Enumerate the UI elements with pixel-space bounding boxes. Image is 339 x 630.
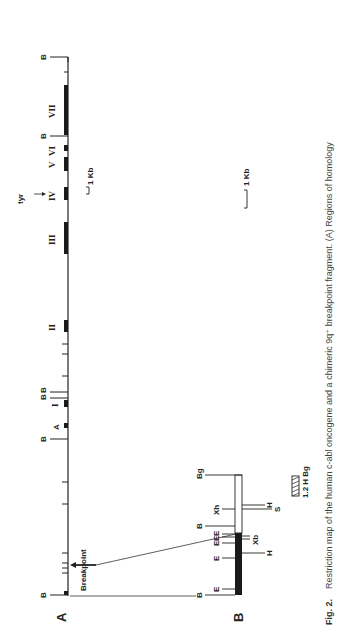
exon-v-label: V — [47, 161, 57, 168]
site-e-label: E — [212, 555, 221, 561]
exon-vi-block — [64, 145, 68, 151]
scale-a-label: 1 Kb — [86, 168, 95, 185]
site-b-label: B — [39, 592, 48, 598]
tyr-label: tyr — [16, 194, 25, 204]
panel-a-labels: B B B B B B VII VI V IV III II I A tyr B… — [16, 54, 95, 622]
site-bg-label: Bg — [195, 468, 204, 479]
figure-caption: Fig. 2. Restriction map of the human c-a… — [324, 142, 334, 625]
exon-a-block — [64, 423, 68, 428]
panel-b-labels: Bg Xh B E E E E E B H S Xb H 1.2 H Bg 1 … — [195, 169, 310, 622]
figure-number: Fig. 2. — [324, 599, 334, 625]
probe-label: 1.2 H Bg — [301, 466, 310, 498]
site-b-label: B — [39, 54, 48, 60]
site-xb-label: Xb — [251, 535, 260, 545]
panel-a-map — [50, 57, 236, 596]
site-e-label: E — [212, 530, 221, 536]
site-e-label: E — [212, 586, 221, 592]
restriction-map-figure: B B B B B B VII VI V IV III II I A tyr B… — [0, 0, 339, 630]
site-xh-label: Xh — [212, 505, 221, 515]
exon-vii-label: VII — [47, 104, 57, 118]
exon-iii-block — [64, 222, 68, 254]
exon-ii-block — [64, 320, 68, 332]
exon-iv-label: IV — [47, 190, 57, 201]
abl-insert-block — [235, 533, 242, 595]
caption-text: Restriction map of the human c-abl oncog… — [324, 142, 334, 589]
panel-b-letter: B — [231, 613, 246, 622]
probe-block — [292, 476, 299, 496]
breakpoint-label: Breakpoint — [79, 549, 88, 591]
site-b-label: B — [39, 133, 48, 139]
site-e-label: E — [212, 540, 221, 546]
exon-vii-block — [64, 85, 68, 135]
exon-i-label: I — [50, 403, 60, 407]
exon-i-block — [64, 400, 68, 407]
scale-bar-a — [86, 187, 89, 194]
scale-b-label: 1 Kb — [242, 169, 251, 186]
site-b-label: B — [39, 394, 48, 400]
scale-bar-b — [244, 190, 247, 208]
exon-vi-label: VI — [47, 146, 57, 156]
exon-iii-label: III — [47, 234, 57, 245]
exon-ii-label: II — [47, 323, 57, 331]
panel-a-letter: A — [54, 612, 69, 622]
site-s-label: S — [273, 506, 282, 512]
site-b-label: B — [39, 387, 48, 393]
site-h-label: H — [265, 550, 274, 556]
site-b-label: B — [195, 523, 204, 529]
site-e-label: E — [212, 535, 221, 541]
site-b-label: B — [39, 436, 48, 442]
site-b-label: B — [195, 592, 204, 598]
exon-a-label: A — [52, 424, 61, 430]
exon-v-block — [64, 157, 68, 171]
exon-iv-block — [64, 187, 68, 200]
